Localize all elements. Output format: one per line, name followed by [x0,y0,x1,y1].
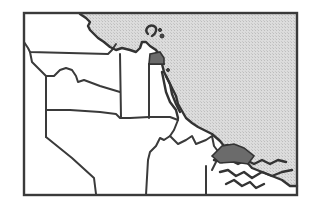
islet [167,69,170,72]
highlight-region-north [149,52,164,64]
map [0,0,317,214]
islet [158,28,161,31]
boundary-central-vertical [120,54,121,118]
islet [160,34,164,38]
